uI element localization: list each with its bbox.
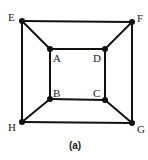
node-E	[19, 18, 25, 24]
node-H	[19, 119, 25, 125]
node-label-F: F	[137, 12, 143, 24]
edge-CB	[50, 99, 105, 100]
node-label-C: C	[93, 87, 100, 99]
node-F	[129, 19, 135, 25]
node-G	[129, 120, 135, 126]
node-label-H: H	[8, 121, 16, 133]
edge-EF	[22, 21, 132, 22]
node-label-G: G	[137, 123, 145, 135]
node-label-B: B	[53, 87, 60, 99]
node-label-A: A	[53, 52, 61, 64]
node-label-D: D	[93, 52, 101, 64]
edge-GH	[22, 122, 132, 123]
edge-GC	[105, 100, 132, 123]
node-label-E: E	[8, 11, 15, 23]
node-D	[102, 46, 108, 52]
edges	[22, 21, 132, 123]
node-C	[102, 97, 108, 103]
edge-EA	[22, 21, 50, 49]
edge-FD	[105, 22, 132, 49]
edge-HB	[22, 99, 50, 122]
graph-diagram: EFGHADCB (a)	[0, 0, 148, 160]
figure-caption: (a)	[69, 140, 81, 151]
